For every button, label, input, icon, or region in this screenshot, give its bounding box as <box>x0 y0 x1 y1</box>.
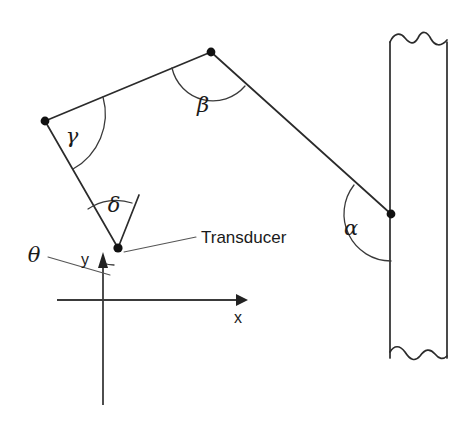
beta-label: β <box>196 93 209 117</box>
wall-bottom-break-line <box>390 347 447 360</box>
gamma-label: γ <box>66 124 79 148</box>
beta-vertex-dot <box>207 48 216 57</box>
delta-label: δ <box>108 193 121 217</box>
alpha-vertex-dot <box>387 210 396 219</box>
x-axis-label: x <box>234 309 242 326</box>
theta-label: θ <box>28 243 41 267</box>
coordinate-axes <box>57 252 248 405</box>
alpha-label: α <box>344 216 358 240</box>
segment-transducer-to-gamma <box>45 121 118 248</box>
segment-beta-to-alpha <box>211 52 391 214</box>
y-axis-label: y <box>81 251 89 268</box>
transducer-geometry-figure: γ β α δ θ y x Transducer <box>0 0 470 424</box>
leader-lines <box>48 237 196 275</box>
segment-gamma-to-beta <box>45 52 211 121</box>
beam-path <box>45 52 391 248</box>
diagram-canvas: γ β α δ θ y x Transducer <box>0 0 470 424</box>
x-axis-arrowhead <box>236 294 248 306</box>
wall-top-break-line <box>390 32 447 44</box>
transducer-label: Transducer <box>201 228 287 247</box>
delta-reference-ray <box>118 195 139 248</box>
wall-plate <box>390 32 447 359</box>
gamma-vertex-dot <box>41 117 50 126</box>
y-axis-arrowhead <box>98 252 108 268</box>
transducer-dot <box>113 243 122 252</box>
transducer-leader-line <box>124 237 196 252</box>
